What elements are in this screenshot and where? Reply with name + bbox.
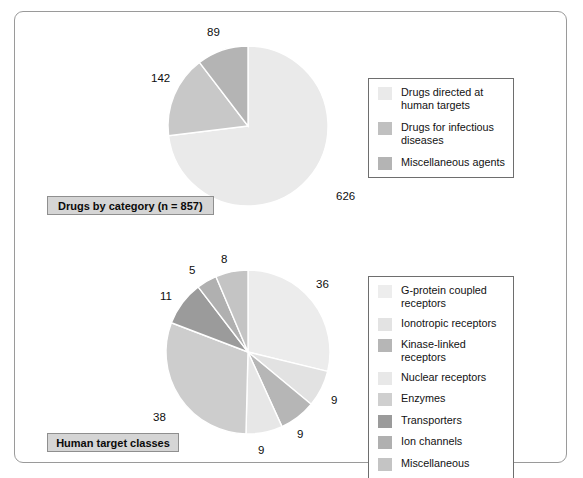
pie-chart-human-target-classes: 36999381158 — [160, 264, 336, 440]
pie-chart-drugs-by-category: 62614289 — [162, 40, 334, 212]
pie-chart-human-target-classes-svg — [160, 264, 336, 440]
pie-value-label: 9 — [331, 394, 337, 406]
legend-targets-label: Transporters — [401, 414, 462, 427]
legend-targets-label: Miscellaneous — [401, 457, 469, 470]
figure-root: 62614289 36999381158 Drugs directed at h… — [0, 0, 583, 478]
legend-swatch-icon — [378, 122, 392, 135]
pie-chart-drugs-by-category-svg — [162, 40, 334, 212]
legend-human-target-classes: G-protein coupled receptorsIonotropic re… — [368, 276, 514, 478]
legend-swatch-icon — [378, 339, 392, 352]
legend-targets-item: Transporters — [378, 414, 505, 428]
legend-swatch-icon — [378, 285, 392, 298]
caption-human-target-classes: Human target classes — [47, 433, 179, 452]
pie-value-label: 11 — [160, 290, 172, 302]
legend-targets-item: G-protein coupled receptors — [378, 284, 505, 309]
legend-drugs-item: Drugs for infectious diseases — [378, 121, 505, 146]
pie-value-label: 9 — [258, 444, 264, 456]
legend-drugs-item: Drugs directed at human targets — [378, 86, 505, 111]
legend-targets-item: Nuclear receptors — [378, 371, 505, 385]
pie-value-label: 8 — [221, 253, 227, 265]
legend-targets-label: Kinase-linked receptors — [401, 338, 505, 363]
legend-swatch-icon — [378, 415, 392, 428]
pie-value-label: 9 — [297, 428, 303, 440]
legend-targets-label: Nuclear receptors — [401, 371, 486, 384]
legend-targets-item: Ion channels — [378, 435, 505, 449]
legend-swatch-icon — [378, 157, 392, 170]
legend-swatch-icon — [378, 372, 392, 385]
pie-value-label: 626 — [336, 190, 355, 202]
legend-targets-label: Ionotropic receptors — [401, 317, 496, 330]
legend-drugs-label: Drugs directed at human targets — [401, 86, 505, 111]
legend-swatch-icon — [378, 393, 392, 406]
pie-value-label: 38 — [153, 411, 166, 423]
legend-targets-label: Ion channels — [401, 435, 462, 448]
legend-drugs-label: Drugs for infectious diseases — [401, 121, 505, 146]
legend-targets-item: Ionotropic receptors — [378, 317, 505, 331]
pie-value-label: 36 — [316, 278, 329, 290]
legend-targets-label: G-protein coupled receptors — [401, 284, 505, 309]
legend-targets-label: Enzymes — [401, 392, 445, 405]
legend-targets-item: Kinase-linked receptors — [378, 338, 505, 363]
legend-targets-item: Miscellaneous — [378, 457, 505, 471]
legend-drugs-label: Miscellaneous agents — [401, 156, 505, 169]
pie-value-label: 142 — [151, 72, 170, 84]
legend-swatch-icon — [378, 87, 392, 100]
legend-swatch-icon — [378, 318, 392, 331]
pie-value-label: 89 — [207, 26, 220, 38]
caption-drugs-by-category: Drugs by category (n = 857) — [47, 196, 214, 215]
legend-swatch-icon — [378, 436, 392, 449]
pie-value-label: 5 — [189, 264, 195, 276]
legend-targets-item: Enzymes — [378, 392, 505, 406]
legend-drugs-by-category: Drugs directed at human targetsDrugs for… — [368, 78, 514, 178]
legend-drugs-item: Miscellaneous agents — [378, 156, 505, 170]
legend-swatch-icon — [378, 458, 392, 471]
